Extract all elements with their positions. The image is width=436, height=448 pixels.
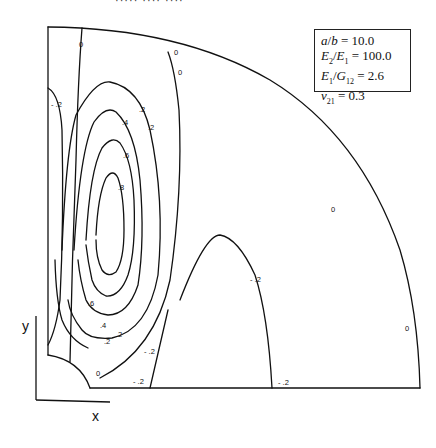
label-06-upper: .6 [123,151,129,160]
label-04-upper: .4 [122,118,128,127]
x-axis-line [36,400,110,402]
label-0-arc-lower: 0 [405,324,409,333]
label-neg02-lower: - .2 [144,347,155,356]
label-neg02-parabola: - .2 [250,275,261,284]
label-06-lower: .6 [88,299,94,308]
contour-0-right [100,52,180,378]
label-0-top: 0 [79,40,83,49]
label-0-top-right: 0 [174,48,178,57]
label-02-lower: .2 [104,337,110,346]
label-neg02-base: - .2 [278,378,289,387]
label-neg02-left: - .2 [51,100,62,109]
label-neg02-bottom: - .2 [133,377,144,386]
y-axis-label: y [22,318,29,334]
contour-04 [74,110,142,315]
legend-modulus-ratio: E2/E1 = 100.0 [321,49,410,69]
legend-box: a/b = 10.0 E2/E1 = 100.0 E1/G12 = 2.6 ν2… [314,29,411,92]
contour-06 [86,140,134,296]
label-0-arc-upper: 0 [331,205,335,214]
hole-arc [48,355,90,388]
contour-neg02-left [48,88,63,345]
label-02-lower-right: .2 [116,330,122,339]
label-0-right-branch: 0 [178,68,182,77]
legend-aspect-ratio: a/b = 10.0 [321,34,410,49]
label-02-upper-right: .2 [148,123,154,132]
label-04-lower: .4 [100,321,106,330]
x-axis-label: x [92,408,99,424]
legend-poisson: ν21 = 0.3 [321,89,410,109]
legend-shear-ratio: E1/G12 = 2.6 [321,69,410,89]
label-02-upper: .2 [139,105,145,114]
contour-neg02-right [180,235,272,388]
label-0-hole: 0 [96,369,100,378]
label-08: .8 [118,183,124,192]
